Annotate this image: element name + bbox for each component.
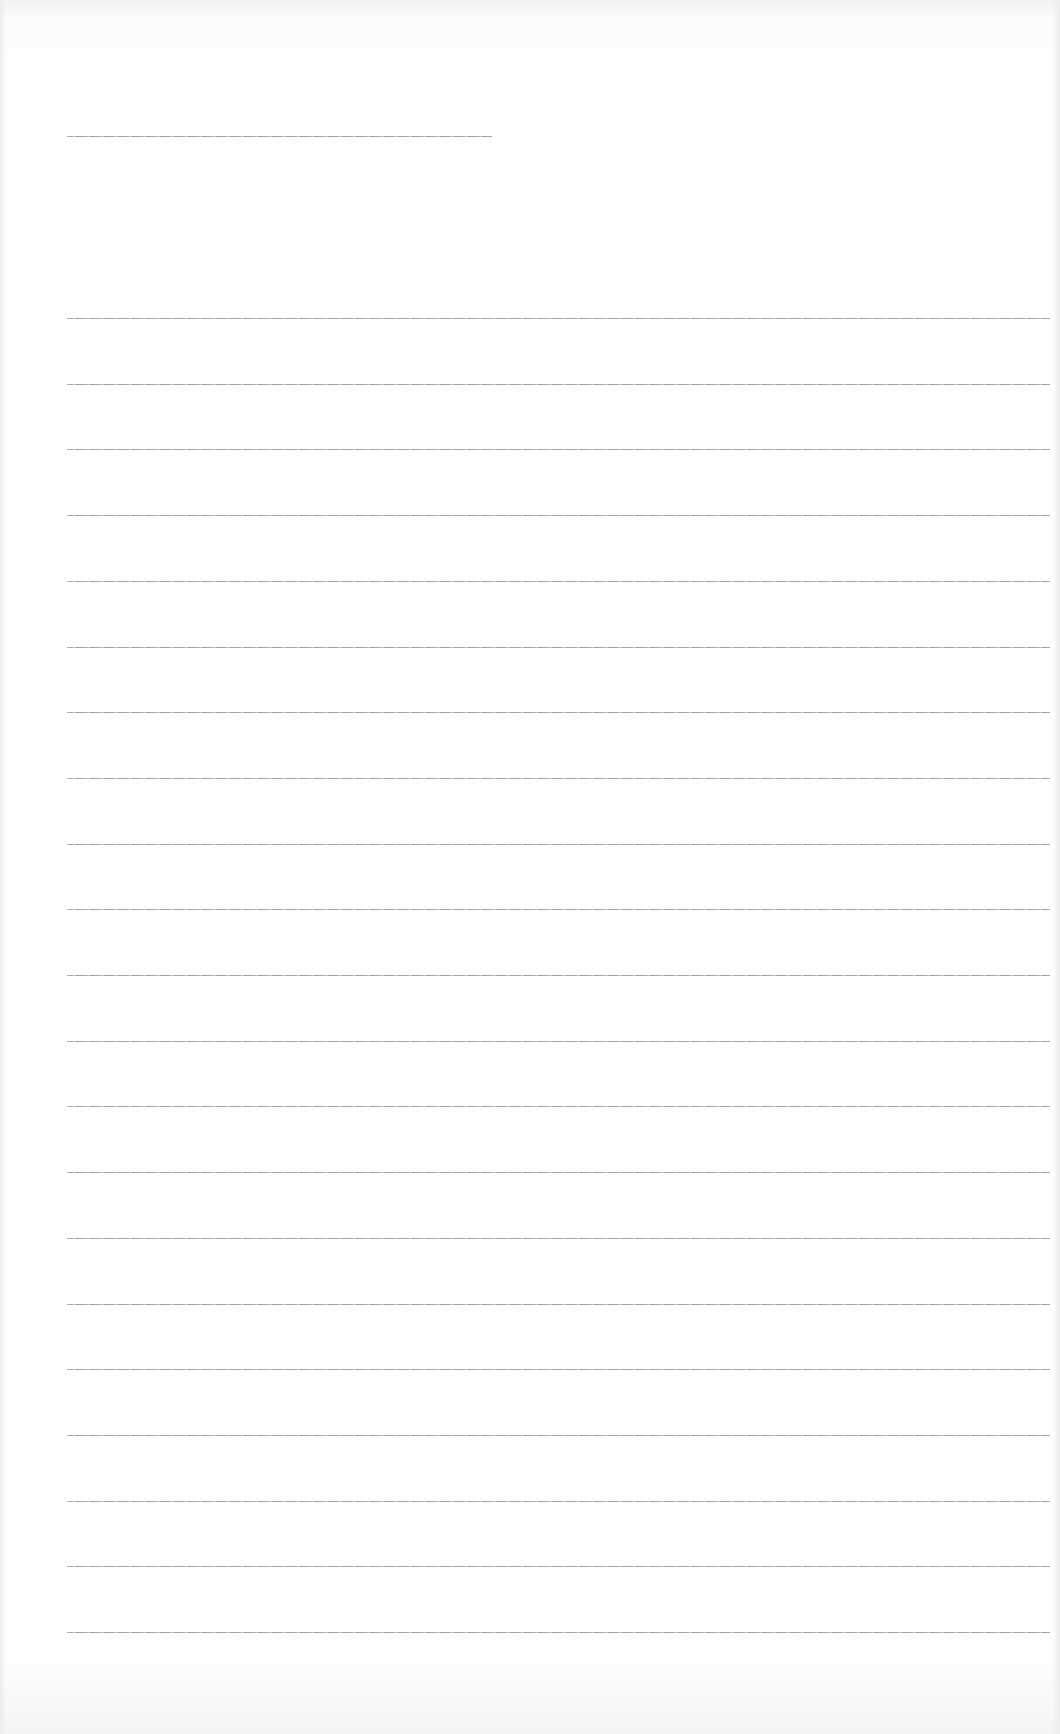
ruled-line (67, 712, 1050, 713)
scan-edge-left (0, 0, 6, 1734)
ruled-line (67, 1632, 1050, 1633)
ruled-line (67, 581, 1050, 582)
document-page (0, 0, 1060, 1734)
title-line (67, 136, 492, 137)
ruled-line (67, 1041, 1050, 1042)
ruled-line (67, 778, 1050, 779)
ruled-line (67, 975, 1050, 976)
ruled-line (67, 844, 1050, 845)
ruled-line (67, 1566, 1050, 1567)
ruled-line (67, 1304, 1050, 1305)
ruled-line (67, 1172, 1050, 1173)
ruled-line (67, 647, 1050, 648)
ruled-line (67, 449, 1050, 450)
scan-edge-right (1052, 0, 1060, 1734)
ruled-line (67, 1369, 1050, 1370)
ruled-line (67, 1106, 1050, 1107)
ruled-line (67, 909, 1050, 910)
ruled-line (67, 515, 1050, 516)
ruled-line (67, 1501, 1050, 1502)
ruled-line (67, 384, 1050, 385)
ruled-line (67, 318, 1050, 319)
ruled-line (67, 1435, 1050, 1436)
ruled-line (67, 1238, 1050, 1239)
